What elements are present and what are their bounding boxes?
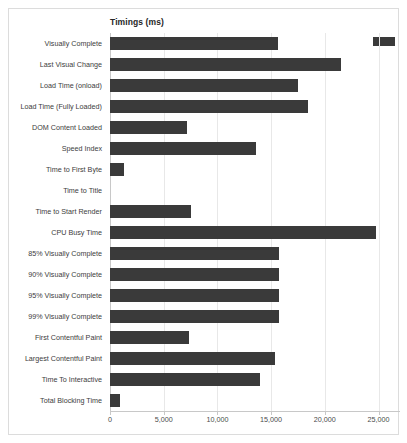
bar-row [110,289,400,302]
bar [110,79,298,92]
bar [110,310,279,323]
category-axis-tick-label: DOM Content Loaded [32,124,102,131]
x-axis-line [110,411,400,412]
bar [110,247,279,260]
bar [110,331,189,344]
category-axis-tick-label: 95% Visually Complete [28,292,102,299]
category-axis-tick-label: 99% Visually Complete [28,313,102,320]
category-axis-tick-label: 90% Visually Complete [28,271,102,278]
category-axis-tick-label: Speed Index [62,145,102,152]
bar-row [110,163,400,176]
bar-row [110,394,400,407]
bar [110,352,275,365]
bar-row [110,58,400,71]
category-axis-tick-label: 85% Visually Complete [28,250,102,257]
bar [110,205,191,218]
bar [110,121,187,134]
bar-row [110,331,400,344]
bar-row [110,79,400,92]
value-axis-tick-label: 25,000 [368,415,390,424]
bar [110,268,279,281]
bar-row [110,268,400,281]
bar [110,373,260,386]
bar [110,394,120,407]
bar-row [110,205,400,218]
bar [110,100,308,113]
category-axis-tick-label: Visually Complete [45,40,102,47]
bar-row [110,142,400,155]
category-axis-tick-label: Load Time (onload) [40,82,102,89]
category-axis-tick-label: Time to Start Render [36,208,102,215]
value-axis-tick-label: 10,000 [206,415,228,424]
value-axis-tick-label: 5,000 [155,415,173,424]
value-axis-tick-label: 20,000 [314,415,336,424]
category-axis-tick-label: Last Visual Change [40,61,102,68]
plot-area [110,33,400,411]
value-axis-tick-label: 15,000 [260,415,282,424]
category-axis-tick-label: First Contentful Paint [35,334,102,341]
bar-row [110,373,400,386]
bar-row [110,352,400,365]
bar-row [110,37,400,50]
bar [110,37,278,50]
category-axis-tick-label: Time to First Byte [46,166,102,173]
category-axis-tick-label: Largest Contentful Paint [25,355,102,362]
bar [110,289,279,302]
bar-row [110,247,400,260]
category-axis-tick-label: Time To Interactive [42,376,102,383]
bar [110,58,341,71]
category-axis-labels: Visually CompleteLast Visual ChangeLoad … [9,33,106,411]
bar-row [110,100,400,113]
category-axis-tick-label: CPU Busy Time [51,229,102,236]
chart-title: Timings (ms) [110,17,164,27]
value-axis-tick-label: 0 [108,415,112,424]
bar [110,142,256,155]
value-axis-labels: 05,00010,00015,00020,00025,000 [110,415,400,429]
bar-row [110,121,400,134]
category-axis-tick-label: Load Time (Fully Loaded) [20,103,102,110]
bar-row [110,226,400,239]
bar-row [110,184,400,197]
bar [110,226,376,239]
chart-card: Timings (ms) Visually CompleteLast Visua… [8,8,399,435]
bar-series [110,33,400,411]
bar [110,163,124,176]
category-axis-tick-label: Time to Title [63,187,102,194]
category-axis-tick-label: Total Blocking Time [40,397,102,404]
bar-row [110,310,400,323]
